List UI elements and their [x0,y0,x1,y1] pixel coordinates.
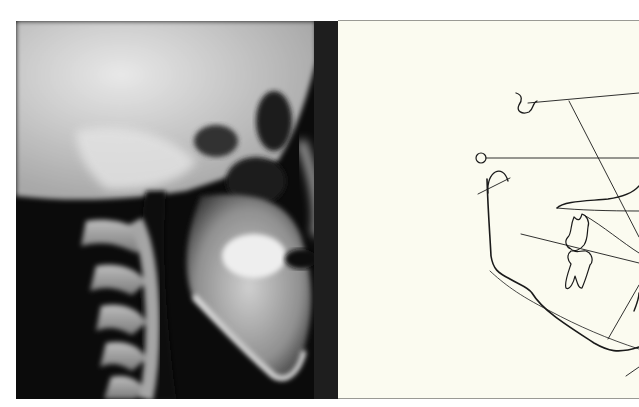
facial-line [608,285,639,339]
porion-circle [476,153,486,163]
sphenoid-sinus [194,125,238,157]
lower-molar [565,251,592,289]
menton-line [626,367,639,376]
condyle [488,171,508,193]
y-axis-line [569,101,639,237]
sn-line [528,93,639,103]
orbit [256,91,292,151]
sella-turcica [516,93,537,113]
palatal-plane [557,208,639,211]
xray-skull-image [16,21,338,399]
upper-molar [566,214,589,251]
teeth [222,234,286,278]
xray-radiograph-panel [16,21,338,399]
cephalometric-tracing-panel [338,20,639,399]
tracing-diagram [338,21,639,398]
chin-contour [634,293,639,311]
condyle-tangent [478,178,510,194]
palate [557,186,639,208]
film-edge [314,21,338,399]
occlusal-plane [521,234,639,263]
oral-air [285,249,317,269]
mandibular-plane-line [490,271,639,349]
